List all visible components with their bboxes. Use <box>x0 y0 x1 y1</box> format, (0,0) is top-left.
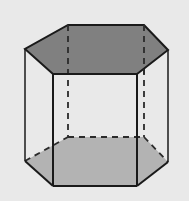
hexagonal-prism-figure <box>0 0 189 201</box>
hexagonal-prism-canvas <box>0 0 189 201</box>
